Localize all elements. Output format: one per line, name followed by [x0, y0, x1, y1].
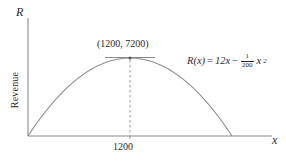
fraction-numerator: 1 [245, 53, 251, 61]
vertex-point-marker [128, 56, 131, 59]
x-axis-variable-label: x [272, 134, 277, 146]
equation-equals: = [207, 56, 213, 67]
function-equation-annotation: R(x) = 12x − 1 200 x2 [187, 53, 267, 69]
y-axis-variable-label: R [16, 6, 23, 18]
equation-variable: x [257, 56, 262, 67]
equation-first-term: 12x [215, 56, 230, 67]
x-axis-tick-label: 1200 [113, 142, 133, 152]
equation-lhs: R(x) [187, 56, 205, 67]
vertex-coordinate-label: (1200, 7200) [97, 39, 149, 49]
equation-fraction: 1 200 [241, 53, 254, 69]
y-axis-title: Revenue [10, 55, 20, 125]
revenue-parabola-figure: R x Revenue (1200, 7200) 1200 R(x) = 12x… [0, 0, 286, 162]
fraction-denominator: 200 [241, 62, 254, 70]
chart-plot-area [0, 0, 286, 162]
equation-minus-sign: − [232, 56, 238, 67]
